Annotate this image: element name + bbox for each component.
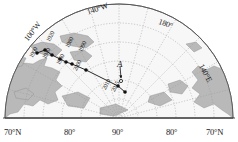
track-point-2000 xyxy=(84,68,88,72)
axis-tick: 80° xyxy=(166,127,177,137)
track-point-2015 xyxy=(123,90,127,94)
polar-map-figure: 100°W140°W180°140°E 19001920194019601980… xyxy=(0,0,238,142)
point-a-label: A xyxy=(117,60,123,69)
track-point-1980 xyxy=(64,60,68,64)
track-point-1940 xyxy=(50,53,54,57)
axis-tick: 70°N xyxy=(206,127,223,137)
latitude-axis: 70°N80°90°80°70°N xyxy=(0,127,238,141)
axis-tick: 70°N xyxy=(4,127,21,137)
axis-tick: 80° xyxy=(64,127,75,137)
axis-tick: 90° xyxy=(112,127,123,137)
